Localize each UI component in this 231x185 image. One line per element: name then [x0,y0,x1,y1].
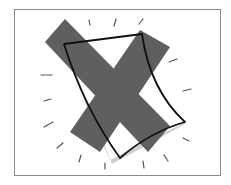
delete-document-illustration [0,0,231,185]
